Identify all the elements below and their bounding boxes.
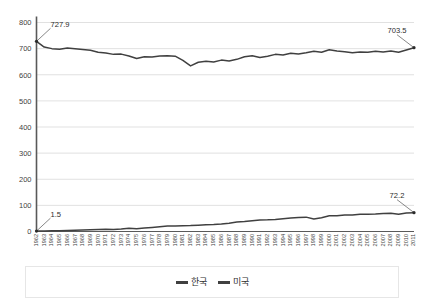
data-label: 727.9 bbox=[51, 20, 70, 29]
y-tick-label: 500 bbox=[19, 97, 32, 106]
legend-item-korea[interactable]: 한국 bbox=[176, 278, 207, 287]
x-tick-label: 1995 bbox=[287, 234, 293, 246]
x-tick-label: 1973 bbox=[118, 234, 124, 246]
x-tick-label: 1982 bbox=[187, 234, 193, 246]
data-point-marker bbox=[35, 40, 38, 43]
y-tick-label: 700 bbox=[19, 44, 32, 53]
legend-swatch-icon bbox=[218, 281, 230, 284]
y-tick-label: 400 bbox=[19, 123, 32, 132]
x-tick-label: 1968 bbox=[79, 234, 85, 246]
x-tick-label: 1985 bbox=[210, 234, 216, 246]
y-tick-label: 0 bbox=[27, 227, 31, 236]
x-tick-label: 1979 bbox=[164, 234, 170, 246]
x-tick-label: 1972 bbox=[110, 234, 116, 246]
x-tick-label: 1962 bbox=[33, 234, 39, 246]
x-tick-label: 2010 bbox=[403, 234, 409, 246]
x-tick-label: 1964 bbox=[48, 234, 54, 246]
legend-swatch-icon bbox=[176, 281, 188, 284]
y-tick-label: 600 bbox=[19, 71, 32, 80]
x-tick-label: 1980 bbox=[172, 234, 178, 246]
x-tick-label: 2005 bbox=[364, 234, 370, 246]
label-leader-line bbox=[397, 200, 414, 213]
x-tick-label: 2007 bbox=[380, 234, 386, 246]
x-tick-label: 1981 bbox=[179, 234, 185, 246]
x-tick-label: 2001 bbox=[333, 234, 339, 246]
label-leader-line bbox=[397, 35, 414, 48]
x-tick-label: 1974 bbox=[125, 234, 131, 246]
x-axis-ticks: 1962196319641965196619671968196919701971… bbox=[33, 234, 417, 246]
x-tick-label: 2000 bbox=[326, 234, 332, 246]
data-point-marker bbox=[412, 46, 415, 49]
label-leader-line bbox=[37, 28, 51, 41]
x-tick-label: 1970 bbox=[95, 234, 101, 246]
y-tick-label: 300 bbox=[19, 149, 32, 158]
plot-area: 0100200300400500600700800196219631964196… bbox=[0, 0, 423, 268]
x-tick-label: 2003 bbox=[349, 234, 355, 246]
data-point-marker bbox=[35, 230, 38, 233]
x-tick-label: 2004 bbox=[357, 234, 363, 246]
x-tick-label: 1988 bbox=[233, 234, 239, 246]
x-tick-label: 1975 bbox=[133, 234, 139, 246]
legend-label: 한국 bbox=[191, 278, 207, 287]
x-tick-label: 1992 bbox=[264, 234, 270, 246]
x-tick-label: 1987 bbox=[226, 234, 232, 246]
x-tick-label: 1991 bbox=[256, 234, 262, 246]
x-tick-label: 1993 bbox=[272, 234, 278, 246]
data-label: 1.5 bbox=[51, 210, 62, 219]
series-line-usa bbox=[37, 41, 415, 66]
gridlines bbox=[37, 23, 415, 206]
x-tick-label: 1990 bbox=[249, 234, 255, 246]
x-tick-label: 1996 bbox=[295, 234, 301, 246]
x-tick-label: 1965 bbox=[56, 234, 62, 246]
y-tick-label: 200 bbox=[19, 175, 32, 184]
x-tick-label: 1976 bbox=[141, 234, 147, 246]
x-tick-label: 1984 bbox=[202, 234, 208, 246]
x-tick-label: 1967 bbox=[72, 234, 78, 246]
y-axis-ticks: 0100200300400500600700800 bbox=[19, 18, 32, 236]
x-tick-label: 2009 bbox=[395, 234, 401, 246]
x-tick-label: 1997 bbox=[303, 234, 309, 246]
x-tick-label: 1989 bbox=[241, 234, 247, 246]
series-line-korea bbox=[37, 213, 415, 231]
x-tick-label: 1966 bbox=[64, 234, 70, 246]
legend-label: 미국 bbox=[233, 278, 249, 287]
line-chart: 0100200300400500600700800196219631964196… bbox=[0, 0, 423, 300]
y-tick-label: 800 bbox=[19, 18, 32, 27]
x-tick-label: 1969 bbox=[87, 234, 93, 246]
chart-canvas: 0100200300400500600700800196219631964196… bbox=[0, 0, 423, 268]
x-tick-label: 1998 bbox=[310, 234, 316, 246]
x-tick-label: 1971 bbox=[102, 234, 108, 246]
x-tick-label: 1963 bbox=[41, 234, 47, 246]
y-tick-label: 100 bbox=[19, 201, 32, 210]
data-point-marker bbox=[412, 211, 415, 214]
data-label: 703.5 bbox=[387, 26, 406, 35]
legend-item-usa[interactable]: 미국 bbox=[218, 278, 249, 287]
data-label: 72.2 bbox=[390, 191, 405, 200]
x-tick-label: 1983 bbox=[195, 234, 201, 246]
x-tick-label: 2008 bbox=[387, 234, 393, 246]
x-tick-label: 1986 bbox=[218, 234, 224, 246]
x-tick-label: 2002 bbox=[341, 234, 347, 246]
x-tick-label: 1994 bbox=[280, 234, 286, 246]
x-tick-label: 1977 bbox=[149, 234, 155, 246]
x-tick-label: 2011 bbox=[410, 234, 416, 246]
chart-legend: 한국미국 bbox=[25, 266, 399, 298]
x-tick-label: 1999 bbox=[318, 234, 324, 246]
x-tick-label: 1978 bbox=[156, 234, 162, 246]
x-tick-label: 2006 bbox=[372, 234, 378, 246]
label-leader-line bbox=[37, 218, 51, 231]
